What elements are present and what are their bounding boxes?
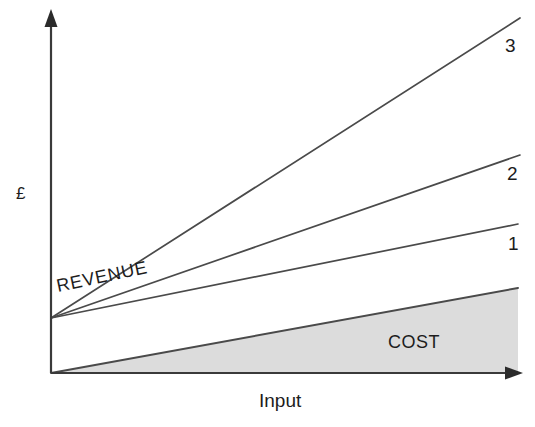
revenue-cost-chart-figure: 3 2 1 REVENUE COST £ Input [0, 0, 535, 427]
series-label-1: 1 [508, 233, 519, 254]
revenue-line-2 [51, 155, 520, 318]
cost-area-label: COST [388, 332, 440, 352]
series-label-3: 3 [505, 35, 516, 56]
chart-canvas: 3 2 1 REVENUE COST £ Input [0, 0, 535, 427]
series-label-2: 2 [507, 163, 518, 184]
y-axis-title: £ [16, 184, 26, 203]
x-axis-title: Input [259, 390, 302, 411]
revenue-area-label: REVENUE [55, 257, 150, 296]
y-axis-arrow-icon [45, 9, 58, 27]
